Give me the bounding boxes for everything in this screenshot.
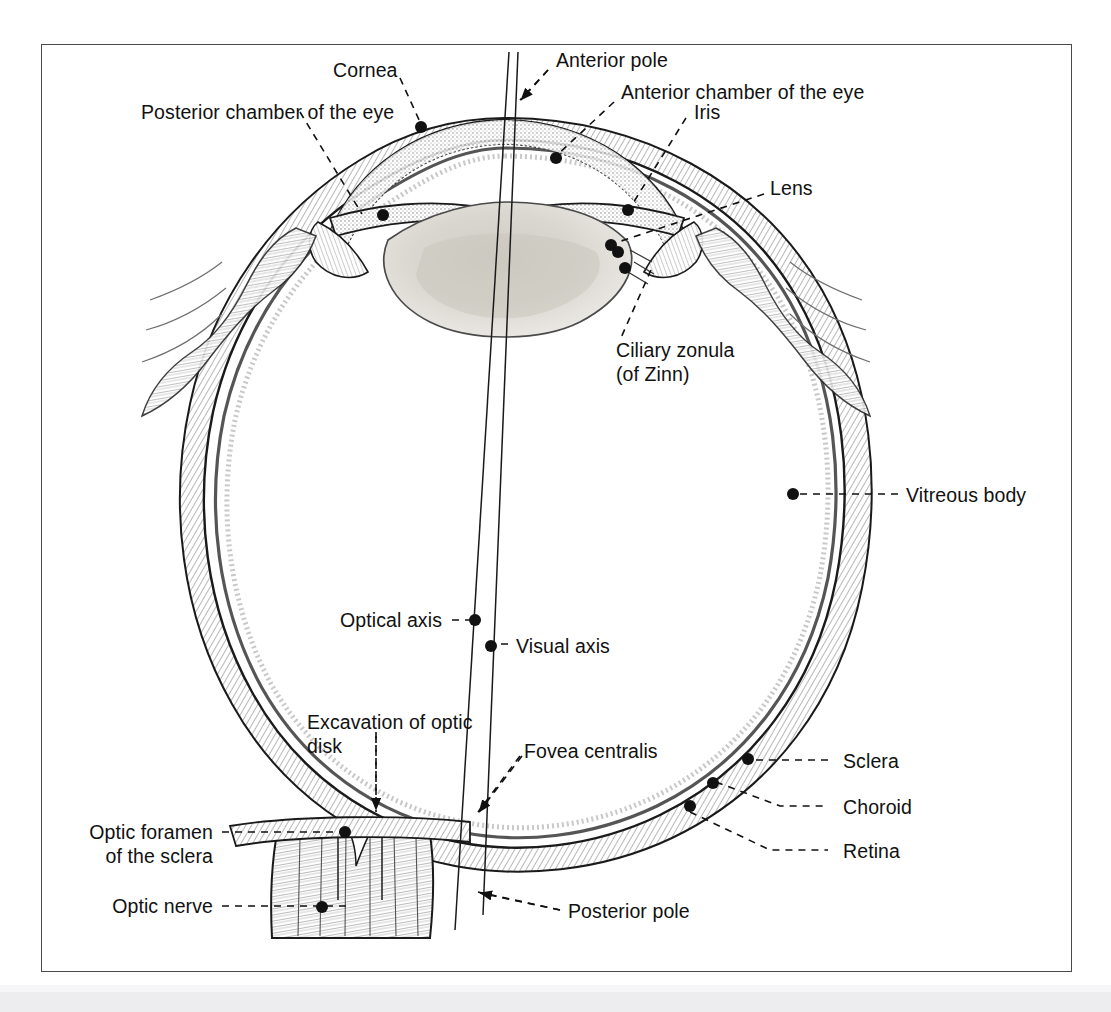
dot-ciliary-zonula-b (619, 262, 631, 274)
label-ciliary-zonula-line1: Ciliary zonula (616, 338, 734, 362)
label-iris: Iris (694, 100, 720, 124)
dot-ciliary-zonula-a (612, 246, 624, 258)
dot-vitreous (787, 488, 799, 500)
dot-cornea (415, 121, 427, 133)
label-cornea: Cornea (333, 58, 398, 82)
label-optic-foramen-line2: of the sclera (0, 844, 213, 868)
label-vitreous-body: Vitreous body (906, 483, 1026, 507)
label-excavation-line2: disk (307, 734, 342, 758)
label-retina: Retina (843, 839, 900, 863)
optic-nerve-sheath (271, 825, 433, 938)
label-anterior-chamber: Anterior chamber of the eye (621, 80, 864, 104)
label-ciliary-zonula-line2: (of Zinn) (616, 362, 690, 386)
page-edge-shadow (0, 992, 1111, 1012)
leader-retina (690, 812, 828, 850)
dot-iris (622, 204, 634, 216)
dot-optical-axis (469, 614, 481, 626)
dot-optic-nerve (316, 901, 328, 913)
dot-visual-axis (485, 640, 497, 652)
label-posterior-pole: Posterior pole (568, 899, 690, 923)
dot-posterior-chamber (377, 209, 389, 221)
label-posterior-chamber: Posterior chamber of the eye (141, 100, 394, 124)
dot-sclera (742, 753, 754, 765)
label-optic-nerve: Optic nerve (0, 894, 213, 918)
label-optic-foramen-line1: Optic foramen (0, 820, 213, 844)
leader-cornea (400, 78, 420, 122)
arrow-posterior-pole (480, 893, 560, 910)
dot-choroid (707, 777, 719, 789)
label-anterior-pole: Anterior pole (556, 48, 668, 72)
label-visual-axis: Visual axis (516, 634, 610, 658)
label-fovea-centralis: Fovea centralis (524, 739, 658, 763)
dot-optic-foramen (339, 826, 351, 838)
dot-retina (684, 800, 696, 812)
figure-root: Posterior chamber of the eye Cornea Ante… (0, 0, 1111, 1012)
label-optical-axis: Optical axis (340, 608, 442, 632)
arrow-anterior-pole (521, 70, 548, 100)
label-sclera: Sclera (843, 749, 899, 773)
label-excavation-line1: Excavation of optic (307, 710, 473, 734)
dot-anterior-chamber (550, 152, 562, 164)
label-choroid: Choroid (843, 795, 912, 819)
label-lens: Lens (770, 176, 813, 200)
